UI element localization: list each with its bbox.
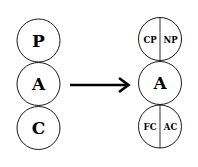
label-fc: FC bbox=[144, 122, 157, 132]
circle-child: C bbox=[17, 107, 60, 150]
label-cp: CP bbox=[143, 35, 157, 45]
left-column: P A C bbox=[17, 19, 60, 150]
right-column: CP NP A FC AC bbox=[139, 18, 182, 149]
label-c: C bbox=[32, 118, 46, 138]
label-ac: AC bbox=[163, 122, 178, 132]
arrow-right-icon bbox=[70, 78, 129, 92]
label-p: P bbox=[32, 31, 45, 51]
circle-parent: P bbox=[17, 19, 60, 62]
label-a-right: A bbox=[152, 73, 167, 93]
pac-diagram: P A C CP NP A FC AC bbox=[0, 0, 198, 167]
label-a: A bbox=[31, 74, 46, 94]
circle-child-split: FC AC bbox=[139, 105, 182, 148]
label-np: NP bbox=[163, 35, 178, 45]
circle-adult-right: A bbox=[139, 62, 182, 105]
circle-adult: A bbox=[17, 63, 60, 106]
circle-parent-split: CP NP bbox=[139, 18, 182, 61]
